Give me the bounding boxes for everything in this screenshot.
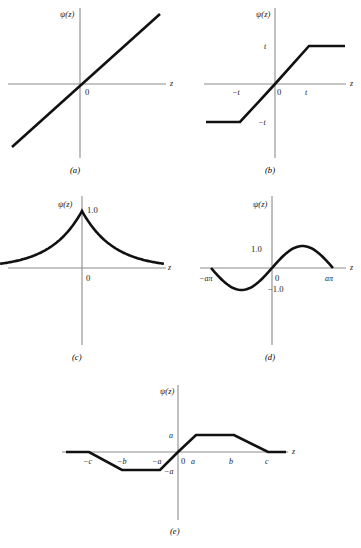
panel-b-y-pos-t: t bbox=[264, 42, 267, 51]
panel-b-y-neg-t: −t bbox=[258, 118, 266, 127]
panel-b-tick-pos-t: t bbox=[305, 88, 308, 97]
figure-svg: ψ(z) z 0 (a) ψ(z) z 0 −t t t −t (b) ψ(z)… bbox=[0, 0, 361, 548]
panel-a-origin-label: 0 bbox=[85, 87, 89, 97]
panel-e-tick-pos-a: a bbox=[191, 457, 195, 466]
panel-d-tick-pos: aπ bbox=[325, 274, 334, 283]
panel-d-y-axis-label: ψ(z) bbox=[253, 199, 268, 209]
panel-d-caption: (d) bbox=[265, 352, 275, 362]
panel-a-y-axis-label: ψ(z) bbox=[60, 9, 75, 19]
panel-e-origin-label: 0 bbox=[181, 456, 185, 466]
panel-b-x-axis-label: z bbox=[349, 79, 354, 88]
panel-e-caption: (e) bbox=[170, 526, 180, 536]
panel-e-tick-pos-c: c bbox=[265, 457, 269, 466]
panel-e-tick-neg-b: −b bbox=[117, 457, 126, 466]
panel-d-y-pos: 1.0 bbox=[251, 244, 262, 254]
panel-c-origin-label: 0 bbox=[86, 273, 90, 283]
panel-d: ψ(z) z 0 −aπ aπ 1.0 −1.0 (d) bbox=[199, 196, 354, 362]
panel-e-x-axis-label: z bbox=[291, 447, 296, 456]
panel-d-y-neg: −1.0 bbox=[268, 284, 284, 294]
panel-c-x-axis-label: z bbox=[167, 263, 172, 272]
panel-d-tick-neg: −aπ bbox=[199, 274, 213, 283]
panel-b-y-axis-label: ψ(z) bbox=[256, 9, 271, 19]
panel-b-caption: (b) bbox=[265, 165, 275, 175]
panel-a-caption: (a) bbox=[70, 165, 80, 175]
panel-b: ψ(z) z 0 −t t t −t (b) bbox=[204, 8, 354, 175]
panel-e-y-pos-a: a bbox=[169, 431, 173, 440]
panel-b-tick-neg-t: −t bbox=[232, 88, 240, 97]
panel-d-x-axis-label: z bbox=[349, 263, 354, 272]
panel-a-curve bbox=[12, 14, 160, 147]
panel-e-tick-neg-c: −c bbox=[83, 457, 92, 466]
panel-e-tick-pos-b: b bbox=[229, 457, 233, 466]
panel-e: ψ(z) z 0 −c −b −a a b c a −a (e) bbox=[62, 385, 296, 536]
panel-b-origin-label: 0 bbox=[277, 87, 281, 97]
figure-container: ψ(z) z 0 (a) ψ(z) z 0 −t t t −t (b) ψ(z)… bbox=[0, 0, 361, 548]
panel-c-peak-label: 1.0 bbox=[87, 205, 98, 215]
panel-c: ψ(z) z 0 1.0 (c) bbox=[0, 196, 172, 362]
panel-e-tick-neg-a: −a bbox=[152, 457, 161, 466]
panel-c-caption: (c) bbox=[72, 352, 82, 362]
panel-c-y-axis-label: ψ(z) bbox=[58, 199, 73, 209]
panel-a-x-axis-label: z bbox=[169, 79, 174, 88]
panel-e-y-neg-a: −a bbox=[164, 467, 173, 476]
panel-d-origin-label: 0 bbox=[275, 273, 279, 283]
panel-e-y-axis-label: ψ(z) bbox=[160, 386, 175, 396]
panel-a: ψ(z) z 0 (a) bbox=[8, 8, 174, 175]
